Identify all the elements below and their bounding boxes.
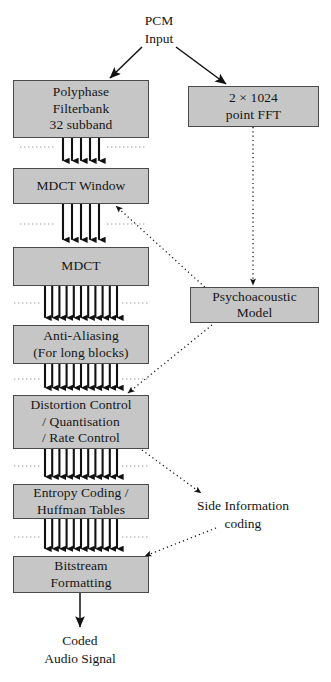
box-distortion-control: Distortion Control / Quantisation / Rate… [13, 395, 149, 449]
label-pcm-input: PCM Input [145, 12, 174, 47]
box-mdct: MDCT [13, 247, 149, 286]
label-line: Input [145, 30, 174, 48]
box-line: (For long blocks) [33, 345, 128, 361]
box-line: Entropy Coding / [33, 485, 128, 501]
box-line: MDCT [61, 258, 100, 274]
box-line: Psychoacoustic [212, 289, 297, 305]
box-line: Anti-Aliasing [43, 328, 119, 344]
label-line: Audio Signal [44, 650, 116, 668]
box-polyphase-filterbank: Polyphase Filterbank 32 subband [13, 80, 149, 138]
encoder-block-diagram: Polyphase Filterbank 32 subband 2 × 1024… [0, 0, 331, 682]
box-line: point FFT [226, 107, 281, 123]
label-side-information-coding: Side Information coding [197, 497, 289, 532]
box-line: Model [237, 305, 273, 321]
box-bitstream-formatting: Bitstream Formatting [13, 556, 149, 593]
box-line: Bitstream [54, 558, 107, 574]
label-coded-audio-signal: Coded Audio Signal [44, 632, 116, 667]
label-line: coding [197, 515, 289, 533]
box-line: 2 × 1024 [229, 90, 278, 106]
box-line: Filterbank [53, 101, 110, 117]
box-line: Polyphase [53, 84, 109, 100]
box-line: Formatting [51, 575, 112, 591]
box-psychoacoustic-model: Psychoacoustic Model [190, 287, 319, 323]
label-line: Coded [44, 632, 116, 650]
box-line: 32 subband [50, 117, 113, 133]
box-line: / Quantisation [42, 414, 120, 430]
box-line: / Rate Control [42, 430, 120, 446]
box-anti-aliasing: Anti-Aliasing (For long blocks) [13, 325, 149, 364]
label-line: Side Information [197, 497, 289, 515]
box-mdct-window: MDCT Window [13, 168, 149, 204]
box-entropy-coding: Entropy Coding / Huffman Tables [13, 484, 149, 519]
box-line: Huffman Tables [37, 502, 125, 518]
box-line: Distortion Control [30, 397, 131, 413]
label-line: PCM [145, 12, 174, 30]
box-line: MDCT Window [37, 178, 126, 194]
box-fft: 2 × 1024 point FFT [188, 86, 319, 127]
